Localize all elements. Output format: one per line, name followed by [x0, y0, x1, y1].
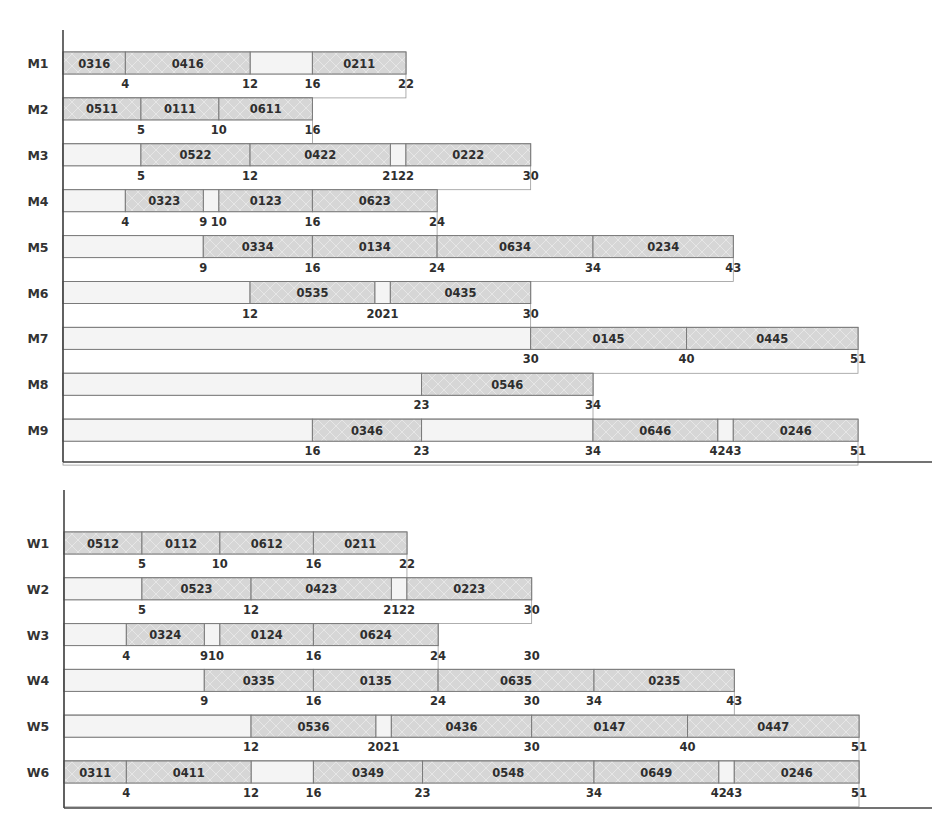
operation-bar: 0511: [63, 98, 141, 120]
tick-label: 9: [199, 215, 207, 229]
operation-bar: 0112: [142, 532, 220, 554]
gantt-row-m1: M10316041602114121622: [27, 52, 414, 98]
tick-label: 42: [711, 786, 727, 800]
tick-label: 12: [243, 740, 259, 754]
tick-label: 30: [524, 649, 540, 663]
operation-label: 0548: [492, 766, 524, 780]
tick-label: 22: [398, 169, 414, 183]
operation-bar: 0223: [407, 578, 532, 600]
tick-label: 22: [398, 77, 414, 91]
tick-label: 12: [242, 77, 258, 91]
idle-gap: [390, 144, 406, 166]
machine-gantt-chart: M10316041602114121622M205110111061151016…: [27, 30, 932, 465]
row-label: M5: [27, 240, 48, 255]
operation-label: 0447: [757, 720, 789, 734]
gantt-charts: M10316041602114121622M205110111061151016…: [0, 0, 942, 837]
operation-bar: 0134: [312, 236, 437, 258]
idle-gap: [718, 419, 734, 441]
operation-bar: 0234: [593, 236, 733, 258]
operation-label: 0211: [344, 537, 376, 551]
operation-bar: 0445: [687, 327, 858, 349]
gantt-row-m2: M205110111061151016: [27, 98, 320, 144]
tick-band: [63, 304, 531, 328]
tick-label: 34: [586, 694, 602, 708]
tick-label: 34: [586, 786, 602, 800]
operation-label: 0311: [79, 766, 111, 780]
tick-label: 30: [523, 169, 539, 183]
tick-label: 16: [305, 694, 321, 708]
operation-label: 0134: [359, 240, 391, 254]
operation-bar: 0346: [312, 419, 421, 441]
idle-gap: [64, 669, 204, 691]
tick-label: 5: [138, 557, 146, 571]
operation-bar: 0135: [313, 669, 438, 691]
operation-bar: 0535: [250, 282, 375, 304]
row-label: M6: [27, 286, 48, 301]
operation-bar: 0649: [594, 761, 719, 783]
tick-label: 30: [524, 740, 540, 754]
operation-label: 0536: [297, 720, 329, 734]
tick-band: [63, 120, 312, 144]
tick-label: 16: [304, 261, 320, 275]
tick-label: 34: [585, 398, 601, 412]
tick-label: 5: [137, 123, 145, 137]
row-label: W1: [27, 536, 50, 551]
operation-label: 0522: [179, 148, 211, 162]
gantt-row-m3: M3052204220222512212230: [27, 144, 538, 190]
operation-bar: 0447: [688, 715, 859, 737]
row-label: W4: [27, 673, 50, 688]
operation-label: 0324: [149, 628, 181, 642]
tick-label: 43: [726, 786, 742, 800]
gantt-row-m5: M50334013406340234916243443: [27, 236, 741, 282]
tick-band: [64, 737, 859, 761]
operation-bar: 0512: [64, 532, 142, 554]
tick-label: 43: [725, 261, 741, 275]
operation-label: 0123: [250, 194, 282, 208]
operation-bar: 0546: [422, 373, 593, 395]
idle-gap: [203, 190, 219, 212]
operation-bar: 0349: [313, 761, 422, 783]
operation-bar: 0311: [64, 761, 126, 783]
tick-label: 34: [585, 444, 601, 458]
operation-bar: 0124: [220, 624, 314, 646]
operation-label: 0512: [87, 537, 119, 551]
idle-gap: [63, 373, 422, 395]
gantt-row-w1: W105120112061202115101622: [27, 532, 415, 578]
gantt-row-w2: W2052304230223512212230: [27, 578, 540, 624]
idle-gap: [391, 578, 407, 600]
operation-label: 0235: [648, 674, 680, 688]
row-label: M2: [27, 102, 48, 117]
tick-label: 51: [850, 444, 866, 458]
tick-label: 43: [726, 694, 742, 708]
operation-label: 0436: [445, 720, 477, 734]
tick-label: 2021: [367, 307, 399, 321]
operation-bar: 0246: [734, 761, 859, 783]
tick-band: [63, 166, 531, 190]
gantt-row-m4: M403230123062349101624: [27, 190, 445, 236]
row-label: M3: [27, 148, 48, 163]
tick-label: 16: [304, 77, 320, 91]
tick-label: 16: [304, 444, 320, 458]
operation-label: 0416: [172, 57, 204, 71]
tick-label: 4: [121, 215, 129, 229]
operation-label: 0211: [343, 57, 375, 71]
gantt-row-m8: M805462334: [27, 373, 601, 419]
tick-label: 30: [523, 307, 539, 321]
tick-label: 16: [305, 557, 321, 571]
operation-bar: 0145: [531, 327, 687, 349]
row-label: W6: [27, 765, 50, 780]
operation-label: 0646: [639, 424, 671, 438]
tick-label: 24: [429, 261, 445, 275]
tick-label: 16: [305, 786, 321, 800]
operation-label: 0246: [781, 766, 813, 780]
tick-band: [63, 212, 437, 236]
row-label: W2: [27, 582, 50, 597]
operation-label: 0445: [756, 332, 788, 346]
operation-label: 0147: [594, 720, 626, 734]
operation-label: 0346: [351, 424, 383, 438]
operation-label: 0435: [444, 286, 476, 300]
operation-label: 0112: [165, 537, 197, 551]
operation-bar: 0635: [438, 669, 594, 691]
gantt-row-w6: W603110411034905480649024641216233442435…: [27, 761, 867, 807]
operation-label: 0422: [304, 148, 336, 162]
